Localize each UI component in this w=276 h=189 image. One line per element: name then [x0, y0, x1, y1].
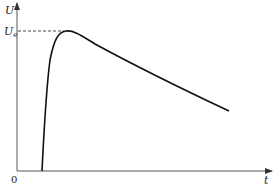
chart-canvas — [0, 0, 276, 189]
voltage-curve — [42, 31, 229, 171]
y-axis-label: U — [5, 5, 14, 16]
x-axis-label: t — [264, 175, 268, 186]
origin-label: 0 — [11, 175, 17, 185]
peak-label: Ue — [4, 26, 17, 39]
